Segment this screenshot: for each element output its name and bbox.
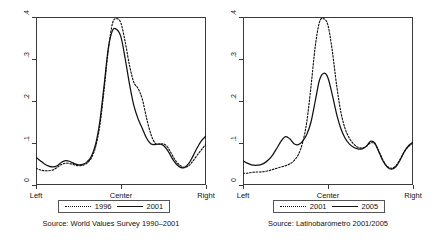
legend-left: 1996 2001 — [58, 200, 170, 213]
y-tick-label: .1 — [230, 136, 237, 142]
legend-swatch-dotted-icon — [65, 206, 91, 207]
legend-right: 2001 2005 — [273, 200, 385, 213]
plot-area-left — [36, 17, 206, 185]
x-tick-label: Right — [197, 191, 215, 200]
legend-swatch-solid-icon — [332, 206, 358, 207]
legend-item-1: 2005 — [332, 203, 379, 211]
y-tick-mark — [239, 59, 243, 60]
legend-item-0: 1996 — [65, 203, 112, 211]
source-note-left: Source: World Values Survey 1990–2001 — [0, 219, 222, 229]
y-tick-label: 0 — [23, 178, 30, 182]
legend-label-0: 2001 — [310, 203, 327, 211]
x-axis-right: LeftCenterRight — [243, 185, 413, 186]
y-tick-mark — [32, 17, 36, 18]
x-tick-label: Center — [110, 191, 133, 200]
series-line-1996 — [36, 19, 206, 171]
x-tick-label: Left — [30, 191, 43, 200]
y-axis-right: 0.1.2.3.4 — [243, 17, 244, 185]
chart-panel-left: 0.1.2.3.4 LeftCenterRight 1996 2001 Sour… — [0, 0, 222, 240]
y-tick-label: .2 — [230, 94, 237, 100]
chart-panel-right: 0.1.2.3.4 LeftCenterRight 2001 2005 Sour… — [223, 0, 445, 240]
y-tick-label: .1 — [23, 136, 30, 142]
figure-canvas: 0.1.2.3.4 LeftCenterRight 1996 2001 Sour… — [0, 0, 445, 240]
x-tick-mark — [121, 185, 122, 189]
x-tick-mark — [206, 185, 207, 189]
series-line-2001 — [243, 18, 413, 173]
legend-item-1: 2001 — [117, 203, 164, 211]
x-tick-label: Right — [404, 191, 422, 200]
legend-label-0: 1996 — [95, 203, 112, 211]
legend-label-1: 2005 — [362, 203, 379, 211]
x-tick-mark — [36, 185, 37, 189]
legend-label-1: 2001 — [147, 203, 164, 211]
legend-item-0: 2001 — [280, 203, 327, 211]
y-tick-mark — [239, 17, 243, 18]
series-line-2001 — [36, 28, 206, 167]
y-tick-mark — [32, 59, 36, 60]
y-tick-label: 0 — [230, 178, 237, 182]
x-tick-mark — [328, 185, 329, 189]
y-tick-label: .2 — [23, 94, 30, 100]
x-tick-label: Left — [237, 191, 250, 200]
y-tick-mark — [32, 143, 36, 144]
legend-swatch-dotted-icon — [280, 206, 306, 207]
source-note-right: Source: Latinobarómetro 2001/2005 — [217, 219, 439, 229]
y-tick-mark — [239, 101, 243, 102]
y-axis-left: 0.1.2.3.4 — [36, 17, 37, 185]
series-line-2005 — [243, 73, 413, 169]
legend-swatch-solid-icon — [117, 206, 143, 207]
x-tick-mark — [243, 185, 244, 189]
x-tick-mark — [413, 185, 414, 189]
plot-area-right — [243, 17, 413, 185]
x-axis-left: LeftCenterRight — [36, 185, 206, 186]
y-tick-label: .3 — [23, 52, 30, 58]
y-tick-label: .4 — [23, 10, 30, 16]
y-tick-mark — [239, 143, 243, 144]
y-tick-label: .4 — [230, 10, 237, 16]
y-tick-label: .3 — [230, 52, 237, 58]
x-tick-label: Center — [317, 191, 340, 200]
y-tick-mark — [32, 101, 36, 102]
